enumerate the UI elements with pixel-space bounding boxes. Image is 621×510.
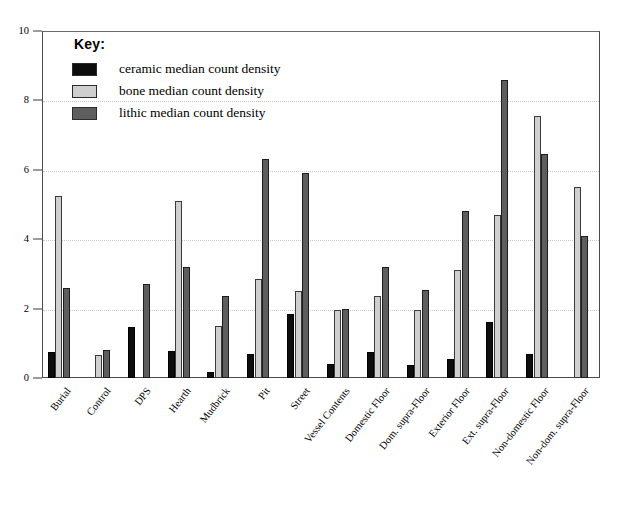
bar-lithic xyxy=(143,284,150,378)
bar-lithic xyxy=(183,267,190,378)
bar-lithic xyxy=(222,296,229,378)
bar-group xyxy=(526,31,548,378)
bar-bone xyxy=(175,201,182,378)
bar-group xyxy=(407,31,429,378)
bar-bone xyxy=(255,279,262,378)
bar-lithic xyxy=(103,350,110,378)
legend-swatch-ceramic xyxy=(72,63,97,76)
bar-group xyxy=(447,31,469,378)
y-tick-mark xyxy=(33,378,42,379)
bar-ceramic xyxy=(327,364,334,378)
legend-label: bone median count density xyxy=(119,84,264,98)
legend-label: lithic median count density xyxy=(119,106,266,120)
x-tick-label-text: Street xyxy=(289,386,312,412)
bar-bone xyxy=(334,310,341,378)
bar-group xyxy=(48,31,70,378)
y-tick-label: 8 xyxy=(24,95,29,106)
legend-item: ceramic median count density xyxy=(72,59,372,79)
bar-bone xyxy=(55,196,62,378)
y-tick-mark xyxy=(33,239,42,240)
y-tick-label: 0 xyxy=(24,373,29,384)
y-tick-mark xyxy=(33,308,42,309)
legend-item: bone median count density xyxy=(72,81,372,101)
legend-item: lithic median count density xyxy=(72,103,372,123)
bar-lithic xyxy=(501,80,508,378)
legend: Key: ceramic median count densitybone me… xyxy=(72,36,372,125)
bar-lithic xyxy=(422,290,429,378)
x-tick-label-text: Mudbrick xyxy=(199,386,233,425)
bar-bone xyxy=(95,355,102,378)
bar-group xyxy=(566,31,588,378)
bar-ceramic xyxy=(168,351,175,378)
bar-lithic xyxy=(63,288,70,378)
x-axis-labels: BurialControlDPSHearthMudbrickPitStreetV… xyxy=(42,378,600,510)
legend-items: ceramic median count densitybone median … xyxy=(72,59,372,123)
x-tick-label-text: Hearth xyxy=(167,386,193,415)
y-tick-mark xyxy=(33,169,42,170)
legend-swatch-lithic xyxy=(72,107,97,120)
bar-lithic xyxy=(581,236,588,378)
bar-lithic xyxy=(342,309,349,378)
legend-label: ceramic median count density xyxy=(119,62,281,76)
y-axis: 0246810 xyxy=(0,0,42,510)
x-tick-label-text: DPS xyxy=(133,386,153,408)
x-tick-label-text: Burial xyxy=(49,386,73,413)
bar-bone xyxy=(295,291,302,378)
bar-lithic xyxy=(302,173,309,378)
y-tick-label: 4 xyxy=(24,234,29,245)
x-tick-label-text: Control xyxy=(85,386,113,418)
bar-lithic xyxy=(262,159,269,378)
y-tick-label: 6 xyxy=(24,165,29,176)
x-tick-label: Pit xyxy=(264,377,279,393)
y-tick-label: 10 xyxy=(19,26,30,37)
y-tick-mark xyxy=(33,31,42,32)
legend-title: Key: xyxy=(74,36,372,52)
bar-ceramic xyxy=(48,352,55,378)
legend-swatch-bone xyxy=(72,85,97,98)
bar-lithic xyxy=(382,267,389,378)
bar-bone xyxy=(215,326,222,378)
bar-group xyxy=(486,31,508,378)
bar-ceramic xyxy=(287,314,294,378)
bar-chart: 0246810 BurialControlDPSHearthMudbrickPi… xyxy=(0,0,621,510)
y-tick-label: 2 xyxy=(24,303,29,314)
y-tick-mark xyxy=(33,100,42,101)
bar-bone xyxy=(374,296,381,378)
x-tick-label-text: Pit xyxy=(257,386,272,402)
